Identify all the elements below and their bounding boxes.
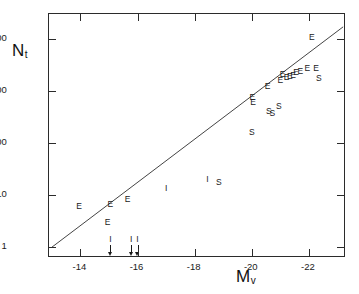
x-axis-tick (195, 249, 196, 256)
y-axis-tick-right (337, 91, 344, 92)
data-point-s: S (269, 109, 275, 118)
data-point-e: E (125, 195, 131, 204)
upper-limit-point-i: I (109, 235, 111, 244)
x-axis-tick-label: -20 (234, 262, 268, 272)
y-axis-tick (49, 39, 56, 40)
upper-limit-point-i: I (130, 235, 132, 244)
x-axis-tick-top (80, 14, 81, 21)
x-axis-tick (138, 249, 139, 256)
y-axis-title-subscript: t (24, 49, 27, 60)
y-axis-tick-right (337, 143, 344, 144)
data-point-e: E (108, 200, 114, 209)
data-point-e: E (250, 98, 256, 107)
y-axis-tick-label: 10,000 (0, 33, 7, 43)
y-axis-tick-right (337, 39, 344, 40)
data-point-s: S (216, 178, 222, 187)
fit-line (49, 14, 344, 256)
y-axis-title-base: N (12, 41, 24, 60)
x-axis-tick (80, 249, 81, 256)
data-point-e: E (76, 202, 82, 211)
y-axis-tick (49, 91, 56, 92)
y-axis-tick-label: 10 (0, 189, 7, 199)
y-axis-tick (49, 143, 56, 144)
y-axis-tick-label: 1000 (0, 85, 7, 95)
x-axis-tick-label: -16 (120, 262, 154, 272)
fit-line-segment (52, 27, 343, 247)
data-point-e: E (105, 217, 111, 226)
y-axis-tick-right (337, 195, 344, 196)
data-point-i: I (206, 175, 208, 184)
data-point-e: E (305, 64, 311, 73)
x-axis-tick-top (309, 14, 310, 21)
x-axis-tick-label: -22 (291, 262, 325, 272)
data-point-s: S (249, 128, 255, 137)
y-axis-tick-right (337, 247, 344, 248)
y-axis-title: Nt (12, 42, 28, 60)
y-axis-tick (49, 195, 56, 196)
x-axis-title-subscript: v (250, 275, 256, 286)
plot-area: EEEEIISSEESSSEEEEEEEEEESE III (49, 14, 344, 256)
x-axis-tick-label: -18 (177, 262, 211, 272)
data-point-e: E (313, 63, 319, 72)
x-axis-tick-top (138, 14, 139, 21)
x-axis-tick-label: -14 (62, 262, 96, 272)
x-axis-tick (309, 249, 310, 256)
figure-canvas: Nt Mv EEEEIISSEESSSEEEEEEEEEESE III 1101… (0, 0, 359, 294)
data-point-e: E (309, 32, 315, 41)
data-point-s: S (316, 73, 322, 82)
x-axis-tick (252, 249, 253, 256)
data-point-i: I (165, 184, 167, 193)
plot-frame: EEEEIISSEESSSEEEEEEEEEESE III (48, 13, 345, 257)
arrow-head (108, 252, 112, 256)
y-axis-tick-label: 1 (0, 241, 7, 251)
data-point-e: E (297, 66, 303, 75)
x-axis-tick-top (252, 14, 253, 21)
y-axis-tick-label: 100 (0, 137, 7, 147)
data-point-s: S (276, 101, 282, 110)
arrow-head (129, 252, 133, 256)
upper-limit-point-i: I (136, 235, 138, 244)
data-point-e: E (265, 82, 271, 91)
y-axis-tick (49, 247, 56, 248)
x-axis-tick-top (195, 14, 196, 21)
